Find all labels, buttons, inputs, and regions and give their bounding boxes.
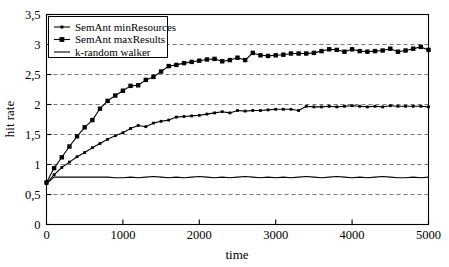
- data-point: [105, 99, 109, 103]
- data-point: [152, 122, 155, 125]
- data-point: [122, 131, 125, 134]
- x-tick-label: 4000: [340, 228, 365, 242]
- y-tick-label: 3: [34, 38, 40, 52]
- data-point: [243, 58, 247, 62]
- data-point: [235, 56, 239, 60]
- data-point: [167, 64, 171, 68]
- data-point: [366, 106, 369, 109]
- data-point: [175, 116, 178, 119]
- data-point: [68, 161, 71, 164]
- data-point: [189, 60, 193, 64]
- data-point: [358, 105, 361, 108]
- data-point: [267, 109, 270, 112]
- y-tick-label: 2,5: [25, 68, 41, 82]
- data-point: [266, 54, 270, 58]
- y-tick-label: 0: [34, 218, 40, 232]
- data-point: [121, 89, 125, 93]
- data-point: [220, 59, 224, 63]
- data-point: [190, 115, 193, 118]
- data-point: [75, 134, 79, 138]
- data-point: [67, 144, 71, 148]
- data-point: [136, 83, 140, 87]
- data-point: [244, 110, 247, 113]
- data-point: [53, 173, 56, 176]
- data-point: [137, 124, 140, 127]
- data-point: [374, 105, 377, 108]
- data-point: [342, 50, 346, 54]
- data-point: [160, 120, 163, 123]
- data-series-group: [44, 45, 430, 185]
- y-tick-label: 1: [34, 158, 40, 172]
- legend-swatch-marker: [60, 26, 63, 29]
- data-point: [98, 107, 102, 111]
- series-2: [44, 45, 430, 185]
- data-point: [251, 51, 255, 55]
- data-point: [290, 108, 293, 111]
- data-point: [60, 155, 64, 159]
- x-axis-title: time: [225, 247, 248, 262]
- data-point: [373, 49, 377, 53]
- data-point: [313, 106, 316, 109]
- data-point: [274, 108, 277, 111]
- data-point: [296, 51, 300, 55]
- series-line: [47, 177, 429, 184]
- data-point: [343, 105, 346, 108]
- data-point: [60, 166, 63, 169]
- data-point: [328, 105, 331, 108]
- data-point: [159, 69, 163, 73]
- x-tick-label: 0: [43, 228, 49, 242]
- data-point: [83, 151, 86, 154]
- data-point: [206, 113, 209, 116]
- data-point: [305, 105, 308, 108]
- data-point: [114, 134, 117, 137]
- data-point: [319, 49, 323, 53]
- data-point: [297, 109, 300, 112]
- x-tick-label: 5000: [416, 228, 441, 242]
- data-point: [396, 50, 400, 54]
- y-tick-label: 1,5: [25, 128, 41, 142]
- data-point: [151, 75, 155, 79]
- data-point: [183, 115, 186, 118]
- data-point: [397, 105, 400, 108]
- data-point: [389, 104, 392, 107]
- data-point: [403, 48, 407, 52]
- data-point: [144, 125, 147, 128]
- data-point: [419, 45, 423, 49]
- data-point: [335, 106, 338, 109]
- series-line: [47, 106, 429, 184]
- data-point: [388, 47, 392, 51]
- series-1: [45, 104, 430, 185]
- data-point: [251, 109, 254, 112]
- data-point: [182, 61, 186, 65]
- data-point: [212, 57, 216, 61]
- data-point: [90, 118, 94, 122]
- legend-label: k-random walker: [75, 46, 151, 58]
- data-point: [351, 104, 354, 107]
- y-axis-title: hit rate: [2, 101, 17, 138]
- data-point: [282, 108, 285, 111]
- data-point: [304, 51, 308, 55]
- y-tick-label: 3,5: [25, 8, 41, 22]
- data-point: [221, 110, 224, 113]
- data-point: [106, 138, 109, 141]
- data-point: [381, 106, 384, 109]
- hit-rate-line-chart: 010002000300040005000 00,511,522,533,5 t…: [0, 0, 449, 267]
- data-point: [411, 47, 415, 51]
- data-point: [427, 106, 430, 109]
- data-point: [198, 114, 201, 117]
- data-point: [320, 106, 323, 109]
- data-point: [281, 53, 285, 57]
- chart-figure: 010002000300040005000 00,511,522,533,5 t…: [0, 0, 449, 267]
- data-point: [365, 50, 369, 54]
- x-tick-label: 2000: [187, 228, 212, 242]
- data-point: [312, 51, 316, 55]
- data-point: [412, 105, 415, 108]
- data-point: [129, 127, 132, 130]
- y-axis-tick-labels: 00,511,522,533,5: [25, 8, 41, 232]
- x-axis-ticks: [47, 220, 429, 225]
- legend-label: SemAnt maxResults: [75, 33, 165, 45]
- y-tick-label: 0,5: [25, 188, 41, 202]
- series-line: [47, 47, 429, 183]
- data-point: [83, 125, 87, 129]
- data-point: [404, 105, 407, 108]
